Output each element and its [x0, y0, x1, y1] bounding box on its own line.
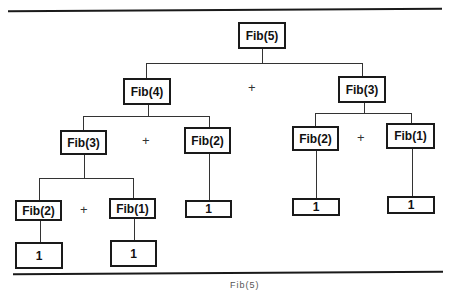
edge [146, 63, 147, 78]
tree-node: Fib(2) [292, 126, 339, 151]
edge [362, 63, 363, 77]
tree-node: Fib(5) [238, 22, 286, 49]
tree-node: Fib(3) [60, 130, 107, 155]
edge [84, 154, 85, 179]
plus-sign: + [80, 202, 88, 217]
edge [262, 48, 263, 64]
leaf-node: 1 [185, 200, 232, 218]
plus-sign: + [142, 133, 150, 148]
tree-node: Fib(1) [109, 198, 156, 219]
edge [39, 178, 134, 179]
edge [134, 218, 135, 241]
plus-sign: + [248, 80, 256, 95]
tree-node: Fib(4) [123, 78, 171, 105]
edge [83, 116, 84, 131]
leaf-node: 1 [110, 240, 157, 267]
bottom-rule [13, 271, 443, 275]
edge [83, 116, 210, 117]
leaf-node: 1 [292, 198, 340, 216]
tree-node: Fib(2) [184, 127, 231, 154]
edge [315, 113, 412, 114]
tree-node: Fib(2) [15, 200, 62, 221]
edge [316, 150, 317, 200]
top-rule [8, 8, 442, 12]
leaf-node: 1 [15, 242, 63, 269]
plus-sign: + [357, 130, 365, 145]
edge [412, 148, 413, 197]
edge [40, 220, 41, 243]
leaf-node: 1 [387, 196, 435, 214]
edge [209, 153, 210, 203]
edge [146, 63, 363, 64]
caption: Fib(5) [230, 280, 260, 290]
tree-node: Fib(1) [386, 123, 435, 149]
tree-node: Fib(3) [338, 76, 386, 103]
